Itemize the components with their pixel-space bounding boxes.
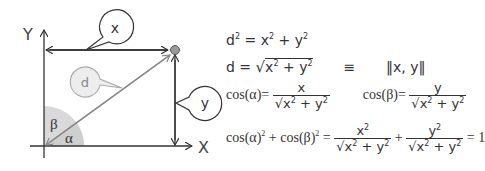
equation-distance: d = √x2 + y2 ≡ ‖x, y‖	[226, 58, 426, 76]
y-axis-label: Y	[22, 25, 33, 44]
math-token: +	[278, 32, 290, 48]
math-token: 2	[315, 129, 319, 138]
math-token: √	[256, 58, 266, 76]
math-token: +	[437, 96, 448, 111]
math-token: ≡	[343, 59, 355, 75]
math-token: d	[226, 32, 235, 48]
math-token: =	[467, 130, 475, 145]
math-token: d	[226, 59, 235, 75]
equation-distance-squared: d2 = x2 + y2	[226, 32, 308, 48]
math-token: 2	[424, 139, 429, 148]
math-token: x	[356, 123, 364, 138]
callout-x-label: x	[111, 20, 119, 36]
callout-y	[176, 87, 222, 121]
math-token: =	[239, 59, 251, 75]
math-token: x	[261, 32, 269, 48]
math-token: cos(α)	[226, 130, 261, 145]
math-token: 2	[364, 123, 369, 132]
math-token: 2	[459, 96, 464, 105]
math-token: 2	[436, 123, 441, 132]
math-token: cos(α)	[226, 87, 261, 102]
math-token: =	[261, 87, 269, 102]
point	[171, 46, 180, 55]
math-token: 2	[427, 96, 432, 105]
math-token: ‖x, y‖	[386, 59, 425, 75]
math-token: +	[433, 140, 444, 155]
callout-x	[86, 10, 134, 50]
alpha-label: α	[65, 130, 73, 146]
x-axis-label: X	[198, 138, 209, 157]
math-token: cos(β)	[363, 87, 398, 102]
math-token: y	[295, 32, 303, 48]
math-token: 2	[307, 59, 312, 68]
equation-identity: cos(α)2 + cos(β)2 = x2√x2 + y2 + y2√x2 +…	[226, 123, 485, 155]
vector-diagram: x y d Y X β α	[0, 0, 230, 171]
callout-d	[70, 67, 122, 97]
math-token: +	[269, 130, 277, 145]
math-token: 2	[261, 129, 265, 138]
math-token: 2	[352, 139, 357, 148]
math-token: =	[398, 87, 406, 102]
callout-y-label: y	[201, 95, 209, 111]
callout-d-label: d	[81, 75, 89, 90]
math-token: y	[409, 80, 466, 95]
equation-cosines: cos(α)= x√x2 + y2 cos(β)= y√x2 + y2	[226, 80, 466, 111]
beta-label: β	[50, 116, 58, 132]
math-token: 2	[456, 139, 461, 148]
math-token: +	[283, 59, 295, 75]
math-token: +	[395, 130, 403, 145]
math-token: 2	[303, 32, 308, 41]
math-token: +	[300, 96, 311, 111]
math-token: y	[315, 96, 323, 111]
math-token: 2	[273, 59, 278, 68]
math-token: 1	[478, 130, 485, 145]
math-token: y	[428, 123, 436, 138]
math-token: cos(β)	[280, 130, 315, 145]
math-token: +	[361, 140, 372, 155]
math-token: 2	[323, 96, 328, 105]
math-token: 2	[269, 32, 274, 41]
math-token: 2	[384, 139, 389, 148]
math-token: x	[273, 80, 330, 95]
math-token: x	[283, 96, 291, 111]
math-token: =	[323, 130, 331, 145]
math-token: =	[244, 32, 256, 48]
math-token: 2	[291, 96, 296, 105]
math-token: 2	[235, 32, 240, 41]
